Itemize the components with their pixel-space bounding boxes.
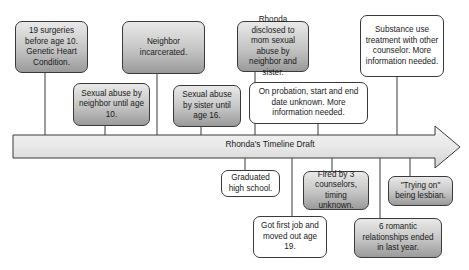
event-box-first-job: Got first job and moved out age 19. <box>253 216 327 258</box>
event-box-trying-on: "Trying on" being lesbian. <box>388 176 453 206</box>
event-box-abuse-sister: Sexual abuse by sister until age 16. <box>173 85 241 127</box>
timeline-diagram: Rhonda's Timeline Draft 19 surgeries bef… <box>0 0 469 270</box>
event-box-probation: On probation, start and end date unknown… <box>249 82 368 124</box>
event-box-substance: Substance use treatment with other couns… <box>360 15 444 77</box>
event-box-fired: Fired by 3 counselors, timing unknown. <box>303 171 369 210</box>
timeline-title: Rhonda's Timeline Draft <box>150 139 390 149</box>
event-box-neighbor-incarcerated: Neighbor incarcerated. <box>122 21 205 74</box>
event-box-surgeries: 19 surgeries before age 10. Genetic Hear… <box>15 21 88 73</box>
event-box-abuse-neighbor: Sexual abuse by neighbor until age 10. <box>73 83 150 126</box>
event-box-graduated: Graduated high school. <box>221 170 280 197</box>
event-box-romantic: 6 romantic relationships ended in last y… <box>354 218 442 258</box>
event-box-disclosed: Rhonda disclosed to mom sexual abuse by … <box>237 21 309 72</box>
